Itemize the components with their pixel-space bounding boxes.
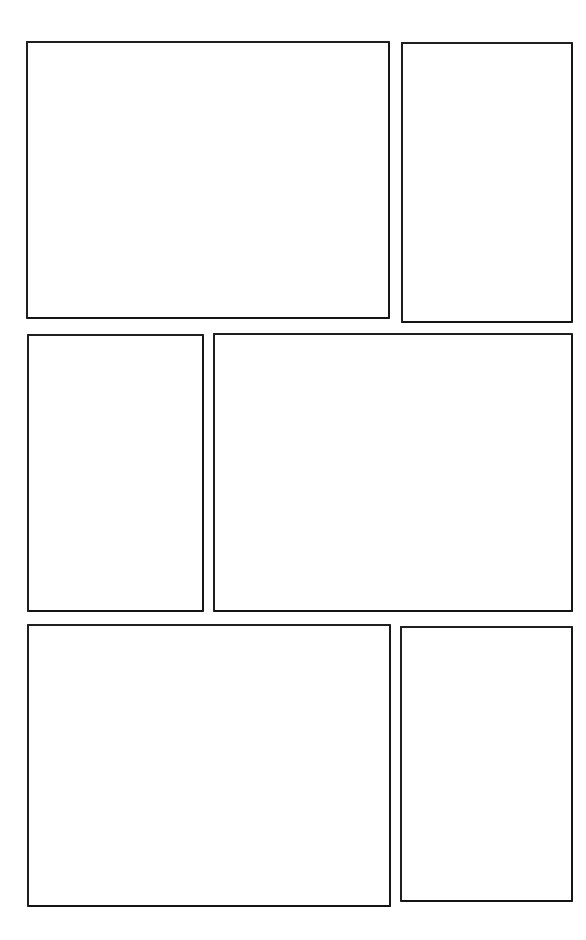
- panel-4[interactable]: [213, 333, 573, 612]
- panel-1-content: [28, 43, 388, 317]
- comic-page: [0, 0, 586, 940]
- panel-6[interactable]: [400, 626, 573, 902]
- panel-3-content: [29, 336, 202, 610]
- panel-3[interactable]: [27, 334, 204, 612]
- panel-1[interactable]: [26, 41, 390, 319]
- panel-row-1: [0, 41, 586, 322]
- panel-row-3: [0, 623, 586, 907]
- panel-row-2: [0, 333, 586, 613]
- panel-2-content: [403, 44, 571, 321]
- panel-5[interactable]: [27, 624, 391, 907]
- panel-4-content: [215, 335, 571, 610]
- panel-6-content: [402, 628, 571, 900]
- panel-2[interactable]: [401, 42, 573, 323]
- panel-5-content: [29, 626, 389, 905]
